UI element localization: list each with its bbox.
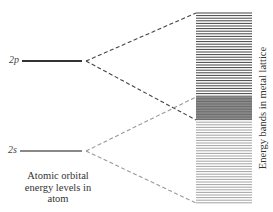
connector-2p-dashed (86, 61, 196, 120)
overlapping-band-region (196, 97, 252, 120)
connector-2p-dashed (86, 13, 196, 61)
caption-line-2: energy levels in (18, 182, 98, 194)
connector-2s-dashed (86, 151, 196, 203)
level-label-2p: 2p (9, 54, 19, 65)
caption-line-3: atom (18, 193, 98, 205)
caption-line-1: Atomic orbital (18, 170, 98, 182)
energy-bands-caption: Energy bands in metal lattice (257, 47, 268, 169)
connector-2s-dashed (86, 97, 196, 151)
energy-band-diagram: 2p 2s Atomic orbital energy levels in at… (0, 0, 273, 212)
atomic-levels-caption: Atomic orbital energy levels in atom (18, 170, 98, 205)
level-label-2s: 2s (8, 144, 17, 155)
